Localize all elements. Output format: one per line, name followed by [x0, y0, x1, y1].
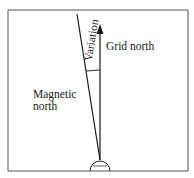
declination-diagram: Variation Grid north Magnetic north	[0, 0, 194, 178]
grid-north-label: Grid north	[106, 40, 154, 52]
magnetic-north-label: Magnetic north	[33, 88, 76, 112]
protractor-icon	[90, 161, 110, 171]
variation-connector	[86, 70, 100, 71]
magnetic-north-label-line1: Magnetic	[33, 88, 76, 100]
magnetic-north-label-line2: north	[33, 100, 76, 112]
